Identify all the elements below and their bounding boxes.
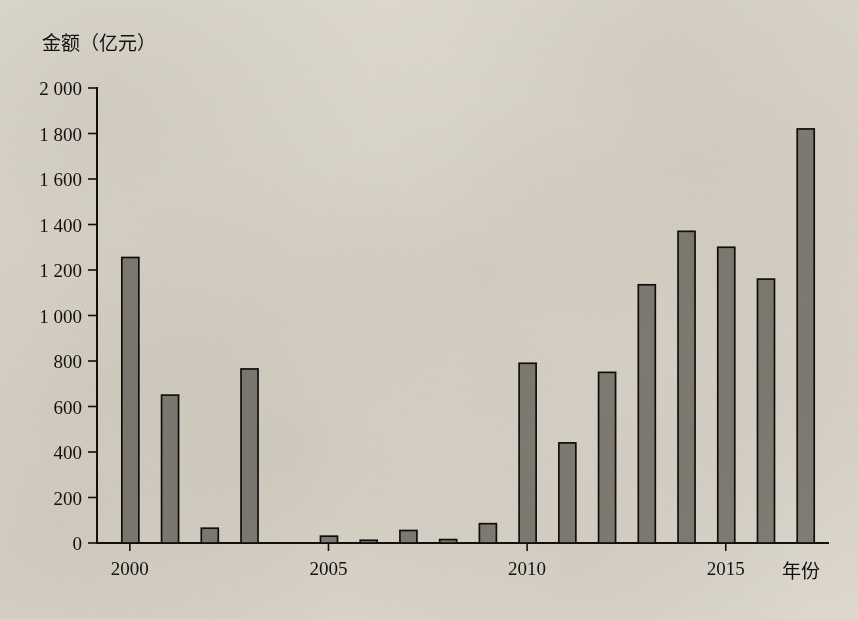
bar bbox=[201, 528, 218, 543]
bar bbox=[400, 530, 417, 543]
y-tick-label: 1 000 bbox=[39, 306, 82, 327]
chart-svg: 金额（亿元） 年份 02004006008001 0001 2001 4001 … bbox=[0, 0, 858, 619]
y-tick-label: 600 bbox=[54, 397, 83, 418]
y-tick-label: 0 bbox=[73, 533, 83, 554]
bar bbox=[718, 247, 735, 543]
x-tick-label: 2010 bbox=[508, 558, 546, 579]
x-tick-label: 2005 bbox=[309, 558, 347, 579]
bar bbox=[122, 257, 139, 543]
x-tick-label: 2000 bbox=[111, 558, 149, 579]
y-axis-title: 金额（亿元） bbox=[42, 32, 156, 54]
bar bbox=[241, 369, 258, 543]
y-axis-ticks: 02004006008001 0001 2001 4001 6001 8002 … bbox=[39, 78, 97, 554]
bar bbox=[559, 443, 576, 543]
bar bbox=[757, 279, 774, 543]
bar bbox=[162, 395, 179, 543]
y-tick-label: 2 000 bbox=[39, 78, 82, 99]
x-axis-title: 年份 bbox=[782, 560, 820, 582]
y-tick-label: 1 200 bbox=[39, 260, 82, 281]
bar bbox=[599, 372, 616, 543]
bar bbox=[320, 536, 337, 543]
x-tick-label: 2015 bbox=[707, 558, 745, 579]
y-tick-label: 1 800 bbox=[39, 124, 82, 145]
y-tick-label: 400 bbox=[54, 442, 83, 463]
bar bbox=[519, 363, 536, 543]
y-tick-label: 800 bbox=[54, 351, 83, 372]
x-axis-ticks: 2000200520102015 bbox=[111, 543, 745, 579]
bar bbox=[678, 231, 695, 543]
bar-series bbox=[122, 129, 814, 543]
y-tick-label: 200 bbox=[54, 488, 83, 509]
bar-chart: 金额（亿元） 年份 02004006008001 0001 2001 4001 … bbox=[0, 0, 858, 619]
y-tick-label: 1 600 bbox=[39, 169, 82, 190]
bar bbox=[440, 540, 457, 543]
bar bbox=[638, 285, 655, 543]
bar bbox=[797, 129, 814, 543]
bar bbox=[479, 524, 496, 543]
y-tick-label: 1 400 bbox=[39, 215, 82, 236]
bar bbox=[360, 540, 377, 543]
